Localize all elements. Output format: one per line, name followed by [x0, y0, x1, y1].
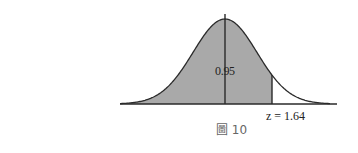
figure-caption: 圖 10: [216, 120, 247, 137]
shaded-area-label: 0.95: [215, 64, 235, 79]
normal-curve-plot: [0, 0, 358, 153]
normal-distribution-figure: 0.95 z = 1.64 圖 10: [0, 0, 358, 153]
shaded-area: [120, 19, 272, 104]
z-value-label: z = 1.64: [266, 109, 305, 124]
